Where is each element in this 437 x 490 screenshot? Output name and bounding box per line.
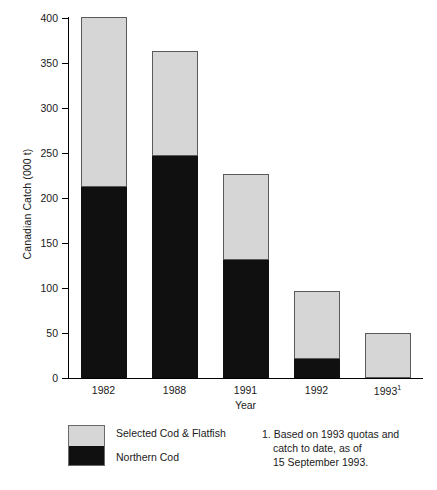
x-axis-category-label-1992: 1992 (281, 384, 352, 396)
y-axis-tick: 150 (62, 243, 69, 244)
bar-segment-northern-cod (152, 156, 198, 378)
y-axis-title: Canadian Catch (000 t) (21, 104, 33, 304)
bar-segment-northern-cod (81, 187, 127, 378)
x-axis-category-label-1993: 19931 (352, 384, 423, 397)
legend-swatch-northern-cod (69, 446, 104, 466)
footnote-line-2: catch to date, as of (262, 441, 432, 455)
y-axis-tick: 250 (62, 153, 69, 154)
y-axis-tick: 0 (62, 378, 69, 379)
plot-area (68, 18, 423, 378)
y-axis-tick: 350 (62, 63, 69, 64)
bar-segment-selected-cod-flatfish (81, 17, 127, 187)
y-axis-tick-label: 0 (52, 372, 58, 384)
bar-1992[interactable] (294, 18, 340, 378)
y-axis-tick: 200 (62, 198, 69, 199)
x-axis-title: Year (68, 399, 423, 411)
y-axis-tick-label: 150 (40, 237, 58, 249)
category-footnote-marker: 1 (397, 384, 401, 391)
y-axis-tick-label: 350 (40, 57, 58, 69)
legend-label-selected-cod-flatfish: Selected Cod & Flatfish (116, 427, 226, 439)
y-axis-tick-label: 250 (40, 147, 58, 159)
bar-segment-northern-cod (294, 359, 340, 378)
y-axis-tick: 300 (62, 108, 69, 109)
y-axis-tick-label: 300 (40, 102, 58, 114)
bar-segment-selected-cod-flatfish (152, 51, 198, 155)
y-axis-tick-label: 400 (40, 12, 58, 24)
legend-swatch-selected-cod-flatfish (69, 426, 104, 446)
bar-1993[interactable] (365, 18, 411, 378)
legend-swatch (68, 425, 105, 466)
x-axis-category-label-1991: 1991 (210, 384, 281, 396)
y-axis-tick: 400 (62, 18, 69, 19)
bar-segment-selected-cod-flatfish (223, 174, 269, 260)
bar-segment-selected-cod-flatfish (365, 333, 411, 378)
footnote-line-1: 1. Based on 1993 quotas and (262, 427, 432, 441)
y-axis-tick-label: 50 (46, 327, 58, 339)
bar-segment-selected-cod-flatfish (294, 291, 340, 359)
x-axis-line (68, 378, 423, 379)
y-axis-tick: 100 (62, 288, 69, 289)
y-axis-tick-label: 200 (40, 192, 58, 204)
y-axis-tick: 50 (62, 333, 69, 334)
y-axis-tick-label: 100 (40, 282, 58, 294)
bar-1988[interactable] (152, 18, 198, 378)
bar-1982[interactable] (81, 18, 127, 378)
bar-segment-northern-cod (223, 260, 269, 378)
x-axis-category-label-1988: 1988 (139, 384, 210, 396)
stacked-bar-chart: Canadian Catch (000 t) Year Selected Cod… (0, 0, 437, 490)
legend-label-northern-cod: Northern Cod (116, 451, 179, 463)
footnote: 1. Based on 1993 quotas and catch to dat… (262, 427, 432, 469)
x-axis-category-label-1982: 1982 (68, 384, 139, 396)
bar-1991[interactable] (223, 18, 269, 378)
footnote-line-3: 15 September 1993. (262, 455, 432, 469)
